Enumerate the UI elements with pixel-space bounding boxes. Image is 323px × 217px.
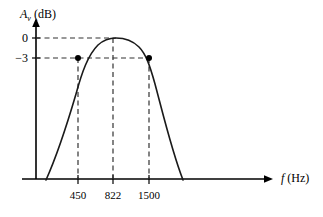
x-tick-label-822: 822	[93, 190, 133, 201]
lower-cutoff-point-marker	[75, 55, 81, 61]
y-axis-title: Av (dB)	[20, 8, 56, 23]
x-axis	[22, 175, 273, 183]
bandpass-response-curve	[46, 38, 183, 180]
x-axis-units: (Hz)	[287, 171, 309, 185]
x-tick-label-1500: 1500	[129, 190, 169, 201]
y-axis	[32, 18, 40, 179]
y-axis-subscript: v	[27, 14, 31, 23]
y-tick-label-0: 0	[6, 32, 28, 44]
bandpass-response-figure: Av (dB) 0 −3 450 822 1500 f (Hz)	[0, 0, 323, 217]
x-tick-label-450: 450	[58, 190, 98, 201]
upper-cutoff-point-marker	[146, 55, 152, 61]
x-axis-symbol: f	[281, 171, 284, 185]
x-axis-title: f (Hz)	[281, 172, 309, 184]
plot-canvas	[0, 0, 323, 217]
y-tick-label-minus3: −3	[4, 52, 28, 64]
y-axis-units: (dB)	[34, 7, 56, 21]
